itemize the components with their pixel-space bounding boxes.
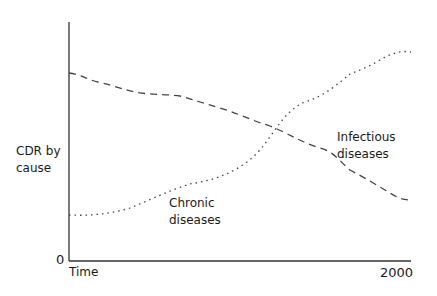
y-axis-label-line2: cause — [16, 160, 61, 177]
chronic-diseases-annotation: Chronic diseases — [169, 195, 221, 229]
chronic-annotation-line1: Chronic — [169, 195, 221, 212]
y-tick-zero: 0 — [56, 251, 64, 268]
y-axis-label-line1: CDR by — [16, 143, 61, 160]
chronic-annotation-line2: diseases — [169, 212, 221, 229]
infectious-annotation-line2: diseases — [337, 146, 396, 163]
y-axis-label: CDR by cause — [16, 143, 61, 177]
x-tick-start: Time — [69, 264, 98, 281]
x-tick-end: 2000 — [380, 264, 413, 281]
infectious-annotation-line1: Infectious — [337, 129, 396, 146]
infectious-diseases-annotation: Infectious diseases — [337, 129, 396, 163]
